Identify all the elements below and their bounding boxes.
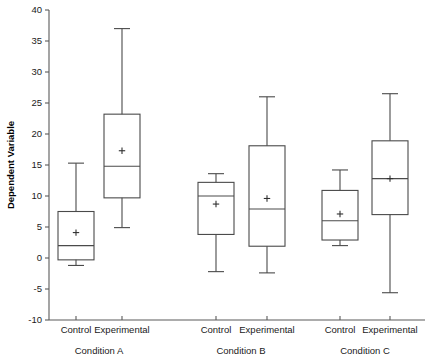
group-label-condition-a: Condition A xyxy=(75,345,124,356)
box-rect xyxy=(104,114,140,198)
y-axis: 4035302520151050-5-10 xyxy=(28,4,49,325)
box-plot-chart: 4035302520151050-5-10 ControlExperimenta… xyxy=(0,0,432,364)
x-axis-label-experimental: Experimental xyxy=(94,324,149,335)
y-axis-tick-label: -10 xyxy=(28,314,42,325)
y-axis-tick-label: 40 xyxy=(31,4,42,15)
box-plot-item xyxy=(372,94,408,293)
y-axis-tick-label: 30 xyxy=(31,66,42,77)
box-plot-item xyxy=(104,29,140,228)
box-rect xyxy=(198,182,234,234)
x-axis xyxy=(49,316,425,320)
x-axis-label-control: Control xyxy=(61,324,92,335)
x-axis-label-experimental: Experimental xyxy=(239,324,294,335)
y-axis-tick-label: 15 xyxy=(31,159,42,170)
y-axis-tick-label: 0 xyxy=(37,252,42,263)
box-series xyxy=(58,29,408,293)
y-axis-tick-label: 35 xyxy=(31,35,42,46)
y-axis-tick-label: -5 xyxy=(34,283,42,294)
group-label-condition-c: Condition C xyxy=(340,345,390,356)
box-plot-item xyxy=(249,97,285,273)
y-axis-title: Dependent Variable xyxy=(5,121,16,209)
group-label-condition-b: Condition B xyxy=(216,345,265,356)
y-axis-tick-label: 20 xyxy=(31,128,42,139)
category-labels: ControlExperimentalControlExperimentalCo… xyxy=(61,324,418,356)
x-axis-label-control: Control xyxy=(201,324,232,335)
x-axis-label-experimental: Experimental xyxy=(362,324,417,335)
y-axis-tick-label: 10 xyxy=(31,190,42,201)
box-plot-item xyxy=(58,163,94,265)
chart-canvas: 4035302520151050-5-10 ControlExperimenta… xyxy=(0,0,432,364)
box-plot-item xyxy=(322,170,358,246)
box-plot-item xyxy=(198,174,234,272)
y-axis-tick-label: 25 xyxy=(31,97,42,108)
x-axis-label-control: Control xyxy=(325,324,356,335)
y-axis-tick-label: 5 xyxy=(37,221,42,232)
